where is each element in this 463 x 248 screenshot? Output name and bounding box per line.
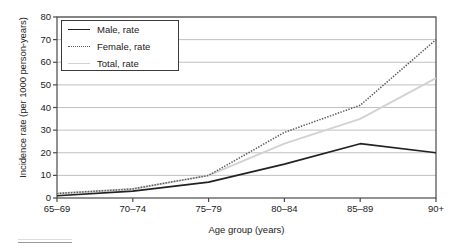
x-axis-label: Age group (years) bbox=[57, 224, 436, 235]
legend-item-total: Total, rate bbox=[62, 55, 178, 72]
series-line bbox=[57, 78, 436, 193]
legend-label-male: Male, rate bbox=[97, 24, 139, 35]
legend-item-female: Female, rate bbox=[62, 38, 178, 55]
legend-label-female: Female, rate bbox=[97, 41, 150, 52]
footer-rule-light bbox=[18, 239, 72, 240]
chart-figure: Incidence rate (per 1000 person-years) 0… bbox=[0, 0, 463, 248]
series-line bbox=[57, 144, 436, 196]
legend-swatch-male-icon bbox=[68, 25, 90, 35]
legend-label-total: Total, rate bbox=[97, 58, 139, 69]
legend-swatch-total-icon bbox=[68, 59, 90, 69]
legend-item-male: Male, rate bbox=[62, 21, 178, 38]
x-axis-ticks bbox=[57, 198, 436, 202]
chart-legend: Male, rate Female, rate Total, rate bbox=[61, 20, 179, 71]
legend-swatch-female-icon bbox=[68, 42, 90, 52]
footer-rule bbox=[18, 242, 72, 243]
